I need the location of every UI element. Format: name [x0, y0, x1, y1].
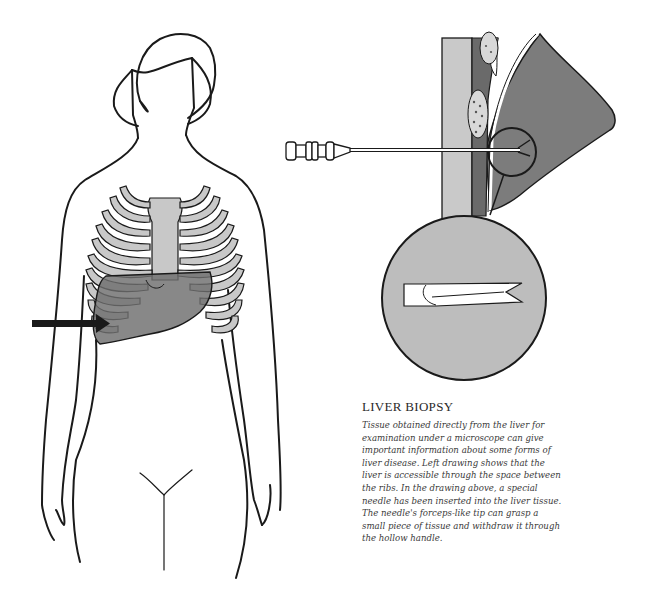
- cross-section: [442, 32, 615, 220]
- caption-body: Tissue obtained directly from the liver …: [362, 419, 562, 545]
- caption-block: LIVER BIOPSY Tissue obtained directly fr…: [362, 399, 562, 545]
- arrow-icon: [32, 314, 110, 333]
- caption-title: LIVER BIOPSY: [362, 399, 562, 415]
- liver-shape: [93, 272, 211, 344]
- magnified-needle-tip: [382, 216, 546, 380]
